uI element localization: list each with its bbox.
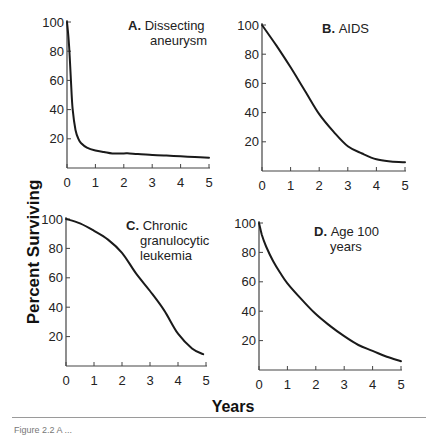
x-tick-label: 3 (341, 377, 348, 392)
y-tick-label: 40 (50, 102, 64, 117)
survival-curves-figure: 20406080100012345A. Dissectinganeurysm20… (0, 0, 426, 436)
x-tick-label: 1 (284, 377, 291, 392)
y-axis-title: Percent Surviving (24, 180, 43, 325)
panel-title: C. Chronicgranulocyticleukemia (126, 218, 210, 263)
y-tick-label: 100 (41, 212, 63, 227)
survival-curve (262, 25, 405, 162)
x-tick-label: 0 (258, 178, 265, 193)
x-tick-label: 3 (149, 175, 156, 190)
x-tick-label: 4 (369, 377, 376, 392)
x-tick-label: 0 (62, 373, 69, 388)
y-tick-label: 100 (42, 15, 64, 30)
y-tick-label: 60 (49, 270, 63, 285)
x-tick-label: 2 (316, 178, 323, 193)
x-tick-label: 5 (205, 175, 212, 190)
y-tick-label: 80 (245, 47, 259, 62)
panel-title: B. AIDS (322, 21, 369, 36)
y-tick-label: 40 (245, 105, 259, 120)
y-tick-label: 40 (49, 300, 63, 315)
x-tick-label: 5 (202, 373, 209, 388)
x-tick-label: 4 (177, 175, 184, 190)
panel-c: 20406080100012345C. Chronicgranulocyticl… (41, 212, 210, 389)
y-tick-label: 60 (245, 76, 259, 91)
y-tick-label: 60 (242, 274, 256, 289)
y-tick-label: 80 (49, 241, 63, 256)
x-tick-label: 4 (373, 178, 380, 193)
y-tick-label: 60 (50, 73, 64, 88)
x-tick-label: 5 (401, 178, 408, 193)
x-tick-label: 1 (90, 373, 97, 388)
x-axis-title: Years (212, 398, 255, 415)
y-tick-label: 100 (234, 216, 256, 231)
x-tick-label: 2 (312, 377, 319, 392)
panel-a: 20406080100012345A. Dissectinganeurysm (42, 15, 212, 191)
panel-title: D. Age 100years (314, 224, 379, 254)
figure-caption: Figure 2.2 A ... (14, 425, 72, 435)
y-tick-label: 20 (245, 134, 259, 149)
x-tick-label: 5 (397, 377, 404, 392)
x-tick-label: 0 (63, 175, 70, 190)
y-tick-label: 80 (50, 44, 64, 59)
x-tick-label: 3 (146, 373, 153, 388)
y-tick-label: 20 (49, 329, 63, 344)
panel-title: A. Dissectinganeurysm (128, 18, 207, 48)
y-tick-label: 40 (242, 304, 256, 319)
x-tick-label: 2 (118, 373, 125, 388)
x-tick-label: 4 (174, 373, 181, 388)
y-tick-label: 80 (242, 245, 256, 260)
x-tick-label: 1 (287, 178, 294, 193)
x-tick-label: 2 (120, 175, 127, 190)
y-tick-label: 100 (237, 18, 259, 33)
panel-b: 20406080100012345B. AIDS (237, 18, 408, 194)
caption-divider (12, 417, 426, 418)
x-tick-label: 3 (344, 178, 351, 193)
x-tick-label: 0 (255, 377, 262, 392)
x-tick-label: 1 (92, 175, 99, 190)
y-tick-label: 20 (242, 333, 256, 348)
y-tick-label: 20 (50, 131, 64, 146)
panel-d: 20406080100012345D. Age 100years (234, 216, 404, 393)
